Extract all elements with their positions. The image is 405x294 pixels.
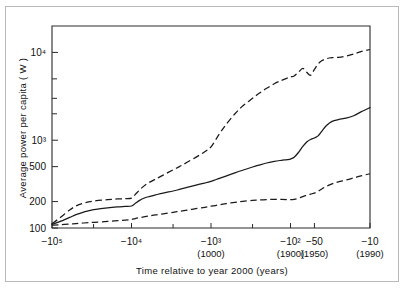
svg-text:−10⁴: −10⁴ bbox=[121, 236, 142, 247]
y-tick-label-2: 500 bbox=[29, 161, 46, 172]
svg-text:(1990): (1990) bbox=[356, 248, 383, 259]
svg-text:−10²: −10² bbox=[280, 236, 301, 247]
x-tick-label-5: −10(1990) bbox=[356, 236, 383, 259]
figure-container: −10⁵−10⁴−10³(1000)−10²(1900)−50(1950)−10… bbox=[0, 0, 405, 294]
x-tick-label-1: −10⁴ bbox=[121, 236, 142, 247]
x-axis-tick-labels: −10⁵−10⁴−10³(1000)−10²(1900)−50(1950)−10… bbox=[41, 236, 383, 259]
svg-text:−10⁵: −10⁵ bbox=[41, 236, 62, 247]
y-axis-tick-labels: 10020050010³10⁴ bbox=[29, 47, 46, 234]
y-tick-label-4: 10⁴ bbox=[31, 47, 46, 58]
y-tick-label-0: 100 bbox=[29, 223, 46, 234]
y-tick-label-3: 10³ bbox=[32, 135, 47, 146]
x-tick-label-0: −10⁵ bbox=[41, 236, 62, 247]
x-axis-title: Time relative to year 2000 (years) bbox=[136, 265, 288, 276]
plot-axes-frame bbox=[52, 26, 370, 228]
chart-canvas: −10⁵−10⁴−10³(1000)−10²(1900)−50(1950)−10… bbox=[0, 0, 405, 294]
svg-text:−10: −10 bbox=[362, 236, 379, 247]
x-tick-label-2: −10³(1000) bbox=[197, 236, 224, 259]
svg-text:−10³: −10³ bbox=[201, 236, 222, 247]
series-upper-bound bbox=[52, 49, 370, 223]
data-series-layer bbox=[52, 49, 370, 225]
y-axis-ticks bbox=[52, 52, 58, 228]
y-axis-title: Average power per capita ( W ) bbox=[17, 58, 28, 198]
svg-text:−50: −50 bbox=[306, 236, 323, 247]
x-axis-ticks bbox=[52, 223, 370, 228]
x-tick-label-4: −50(1950) bbox=[301, 236, 328, 259]
svg-text:(1950): (1950) bbox=[301, 248, 328, 259]
y-tick-label-1: 200 bbox=[29, 196, 46, 207]
svg-text:(1000): (1000) bbox=[197, 248, 224, 259]
